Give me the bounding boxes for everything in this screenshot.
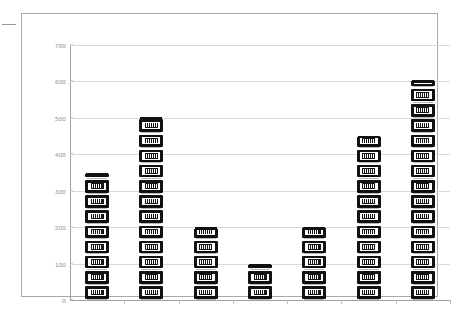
y-axis-tick-label: 200 — [55, 224, 66, 231]
bank-building-icon — [300, 270, 328, 285]
bank-building-icon — [137, 285, 165, 300]
x-axis-tick-mark — [450, 300, 451, 304]
bank-building-icon — [246, 270, 274, 285]
y-axis-tick-label: 500 — [55, 114, 66, 121]
bar-top-cap — [412, 80, 434, 83]
bank-building-icon — [192, 239, 220, 254]
bank-building-icon — [409, 133, 437, 148]
bank-building-icon — [137, 209, 165, 224]
x-axis-tick-mark — [124, 300, 125, 304]
bank-building-icon — [409, 118, 437, 133]
gridline — [70, 45, 450, 46]
x-axis-tick-mark — [179, 300, 180, 304]
bank-building-icon — [355, 179, 383, 194]
gridline — [70, 118, 450, 119]
y-axis-tick-label: 600 — [55, 78, 66, 85]
bank-building-icon — [300, 285, 328, 300]
bank-building-icon — [409, 285, 437, 300]
y-axis-tick-label: 300 — [55, 187, 66, 194]
bar[interactable] — [82, 174, 112, 300]
bank-building-icon — [137, 224, 165, 239]
bank-building-icon — [409, 270, 437, 285]
bank-building-icon — [83, 209, 111, 224]
gridline — [70, 154, 450, 155]
bank-building-icon — [192, 285, 220, 300]
gridline — [70, 227, 450, 228]
bar[interactable] — [408, 81, 438, 300]
bank-building-icon — [83, 224, 111, 239]
bank-building-icon — [192, 270, 220, 285]
bank-building-icon — [83, 285, 111, 300]
gridline — [70, 81, 450, 82]
bank-building-icon — [83, 179, 111, 194]
gridline — [70, 191, 450, 192]
bank-building-icon — [409, 224, 437, 239]
bank-building-icon — [409, 239, 437, 254]
bar[interactable] — [354, 137, 384, 300]
bank-building-icon — [300, 239, 328, 254]
bar-top-cap — [358, 136, 380, 139]
bar[interactable] — [245, 265, 275, 300]
bank-building-icon — [355, 137, 383, 148]
bank-building-icon — [192, 254, 220, 269]
stray-dash-mark — [2, 24, 16, 25]
bank-building-icon — [137, 239, 165, 254]
bank-building-icon — [300, 254, 328, 269]
y-axis-tick-label: 700 — [55, 42, 66, 49]
bank-building-icon — [355, 163, 383, 178]
bank-building-icon — [137, 254, 165, 269]
bar[interactable] — [136, 118, 166, 300]
bar-top-cap — [303, 227, 325, 230]
bank-building-icon — [409, 103, 437, 118]
bank-building-icon — [137, 270, 165, 285]
bank-building-icon — [83, 254, 111, 269]
bank-building-icon — [355, 148, 383, 163]
x-axis-tick-mark — [233, 300, 234, 304]
bank-building-icon — [137, 163, 165, 178]
gridline — [70, 300, 450, 301]
y-axis-tick-label: 100 — [55, 260, 66, 267]
bar-top-cap — [249, 264, 271, 267]
bank-building-icon — [83, 194, 111, 209]
bar[interactable] — [191, 229, 221, 300]
bank-building-icon — [409, 194, 437, 209]
plot-area — [70, 45, 450, 300]
bank-building-icon — [409, 163, 437, 178]
bank-building-icon — [137, 179, 165, 194]
bank-building-icon — [355, 270, 383, 285]
x-axis-tick-mark — [341, 300, 342, 304]
bank-building-icon — [300, 228, 328, 239]
bank-building-icon — [355, 254, 383, 269]
bank-building-icon — [137, 194, 165, 209]
bar[interactable] — [299, 228, 329, 300]
bank-building-icon — [409, 87, 437, 102]
bank-building-icon — [355, 194, 383, 209]
bank-building-icon — [409, 209, 437, 224]
bank-building-icon — [355, 224, 383, 239]
bank-building-icon — [355, 209, 383, 224]
bank-building-icon — [137, 148, 165, 163]
bank-building-icon — [83, 239, 111, 254]
bank-building-icon — [355, 285, 383, 300]
x-axis-tick-mark — [396, 300, 397, 304]
x-axis-tick-mark — [287, 300, 288, 304]
bank-building-icon — [83, 270, 111, 285]
chart-frame: 0100200300400500600700 — [21, 13, 438, 297]
bank-building-icon — [409, 254, 437, 269]
y-axis-tick-group: 0100200300400500600700 — [40, 45, 66, 300]
bar-top-cap — [86, 173, 108, 176]
bank-building-icon — [246, 285, 274, 300]
y-axis-tick-label: 400 — [55, 151, 66, 158]
bank-building-icon — [409, 179, 437, 194]
bank-building-icon — [192, 229, 220, 240]
y-axis-tick-label: 0 — [62, 297, 66, 304]
bank-building-icon — [137, 118, 165, 133]
bank-building-icon — [137, 133, 165, 148]
bar-top-cap — [140, 117, 162, 120]
bank-building-icon — [355, 239, 383, 254]
bank-building-icon — [409, 148, 437, 163]
bar-top-cap — [195, 227, 217, 230]
